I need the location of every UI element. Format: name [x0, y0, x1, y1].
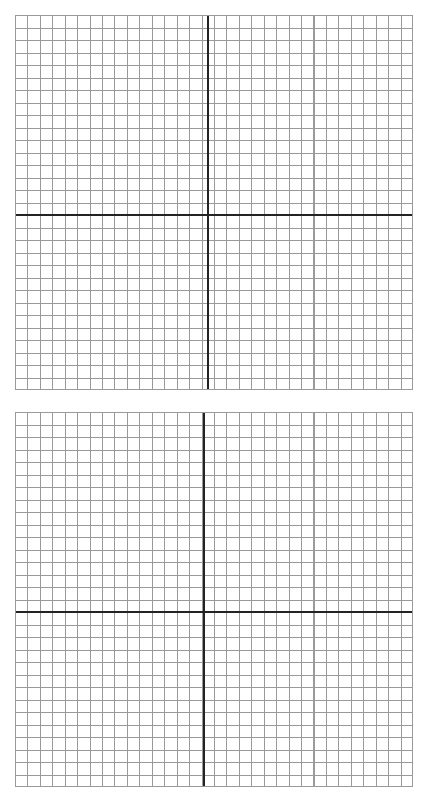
grid-border-top — [15, 15, 413, 390]
grid-lines-top — [15, 15, 413, 390]
x-axis-line-top — [15, 214, 413, 216]
grid-border-bottom — [15, 412, 413, 787]
grid-lines-bottom — [15, 412, 413, 787]
y-axis-line-bottom — [203, 412, 205, 787]
y-axis-line-top — [207, 15, 209, 390]
grid-panel-top — [15, 15, 413, 390]
graph-paper-page — [0, 0, 430, 803]
x-axis-line-bottom — [15, 611, 413, 613]
grid-panel-bottom — [15, 412, 413, 787]
